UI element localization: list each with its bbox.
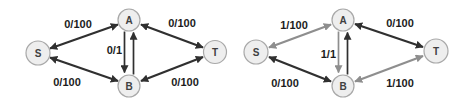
left-node-t-label: T <box>212 47 218 58</box>
diagram-canvas: 0/100 0/100 0/100 0/100 0/1 S A B T <box>0 0 469 104</box>
left-node-s: S <box>26 41 50 65</box>
left-node-b-label: B <box>125 81 132 92</box>
right-node-a: A <box>332 9 354 31</box>
left-node-a-label: A <box>125 15 132 26</box>
right-edge-s-b-label: 0/100 <box>271 77 299 89</box>
right-node-t: T <box>424 39 448 63</box>
left-node-a: A <box>118 9 140 31</box>
right-node-b: B <box>332 75 354 97</box>
right-edge-s-a-label: 1/100 <box>280 19 308 31</box>
left-edge-s-b-label: 0/100 <box>53 76 81 88</box>
right-edge-a-t-label: 0/100 <box>386 17 414 29</box>
left-node-t: T <box>204 41 227 64</box>
left-node-b: B <box>118 75 140 97</box>
left-edge-s-a-label: 0/100 <box>64 18 92 30</box>
right-edge-b-t-label: 1/100 <box>386 77 414 89</box>
right-node-s: S <box>244 40 268 64</box>
left-node-s-label: S <box>35 48 42 59</box>
left-graph: 0/100 0/100 0/100 0/100 0/1 S A B T <box>26 9 227 97</box>
right-node-t-label: T <box>433 46 439 57</box>
right-edge-a-b-label: 1/1 <box>321 48 336 60</box>
left-edge-b-t-label: 0/100 <box>171 76 199 88</box>
flow-network-diagram: 0/100 0/100 0/100 0/100 0/1 S A B T <box>0 0 469 104</box>
right-node-a-label: A <box>339 15 346 26</box>
right-node-b-label: B <box>339 81 346 92</box>
left-edge-a-t-label: 0/100 <box>168 17 196 29</box>
right-graph: 1/100 0/100 0/100 1/100 1/1 S A B T <box>244 9 448 97</box>
left-edge-a-b-label: 0/1 <box>107 44 122 56</box>
right-node-s-label: S <box>253 47 260 58</box>
